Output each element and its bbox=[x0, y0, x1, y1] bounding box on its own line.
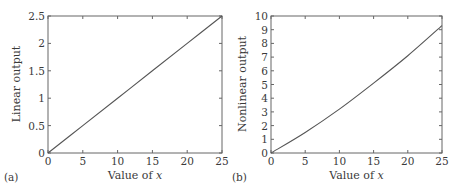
y-tick-label: 1 bbox=[261, 133, 268, 145]
y-tick-label: 0 bbox=[38, 147, 45, 159]
x-tick-label: 5 bbox=[302, 155, 309, 167]
y-tick-label: 0 bbox=[261, 147, 268, 159]
x-tick-label: 15 bbox=[367, 155, 380, 167]
y-tick-label: 6 bbox=[261, 65, 268, 77]
y-tick-label: 8 bbox=[261, 37, 268, 49]
x-axis-title: Value of x bbox=[328, 169, 384, 182]
nonlinear-series-line bbox=[271, 26, 442, 153]
x-tick-label: 5 bbox=[79, 155, 86, 167]
y-tick-label: 5 bbox=[261, 79, 268, 91]
linear-series-line bbox=[48, 16, 222, 153]
y-tick-label: 7 bbox=[261, 51, 268, 63]
y-axis-title: Nonlinear output bbox=[236, 35, 249, 132]
y-tick-label: 2.5 bbox=[28, 10, 45, 22]
panel-label: (b) bbox=[232, 171, 247, 183]
linear-chart: 051015202500.511.522.5Value of xLinear o… bbox=[4, 10, 229, 183]
x-axis-title: Value of x bbox=[107, 169, 163, 182]
x-tick-label: 10 bbox=[111, 155, 124, 167]
x-tick-label: 10 bbox=[333, 155, 346, 167]
x-tick-label: 15 bbox=[146, 155, 159, 167]
y-tick-label: 0.5 bbox=[28, 120, 45, 132]
y-tick-label: 9 bbox=[261, 24, 268, 36]
y-tick-label: 10 bbox=[255, 10, 268, 22]
y-axis-title: Linear output bbox=[10, 45, 23, 122]
x-tick-label: 25 bbox=[215, 155, 228, 167]
panel-label: (a) bbox=[4, 171, 18, 183]
x-tick-label: 20 bbox=[181, 155, 194, 167]
figure: 051015202500.511.522.5Value of xLinear o… bbox=[0, 0, 460, 191]
x-tick-label: 0 bbox=[45, 155, 52, 167]
plot-frame bbox=[271, 16, 442, 153]
y-tick-label: 1 bbox=[38, 92, 45, 104]
y-tick-label: 4 bbox=[261, 92, 268, 104]
y-tick-label: 2 bbox=[38, 37, 45, 49]
x-tick-label: 25 bbox=[435, 155, 448, 167]
nonlinear-chart: 0510152025012345678910Value of xNonlinea… bbox=[232, 10, 449, 183]
x-tick-label: 20 bbox=[401, 155, 414, 167]
y-tick-label: 2 bbox=[261, 120, 268, 132]
y-tick-label: 1.5 bbox=[28, 65, 45, 77]
x-tick-label: 0 bbox=[268, 155, 275, 167]
y-tick-label: 3 bbox=[261, 106, 268, 118]
